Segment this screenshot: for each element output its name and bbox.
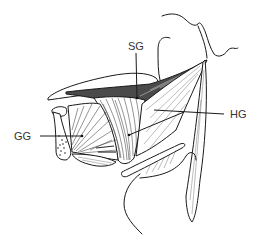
gg-pointer-dot xyxy=(81,135,84,138)
skull-outline xyxy=(162,14,238,56)
neck-outline xyxy=(124,174,142,234)
label-sg-text: SG xyxy=(128,40,144,52)
styloid-process xyxy=(198,26,207,58)
hg-pointer-dot xyxy=(128,134,131,137)
label-hg-text: HG xyxy=(230,108,247,120)
mastoid-outline xyxy=(158,37,170,80)
tongue-muscle-diagram: SG HG GG xyxy=(0,0,261,244)
label-gg-text: GG xyxy=(14,130,31,142)
sg-pointer-dot xyxy=(136,97,139,100)
